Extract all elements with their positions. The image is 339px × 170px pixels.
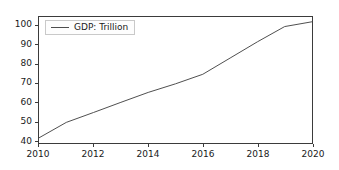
x-tick-label: 2012 — [82, 150, 105, 159]
legend-line-swatch — [51, 27, 69, 28]
x-tick-mark — [203, 144, 204, 147]
x-tick-mark — [93, 144, 94, 147]
x-tick-label: 2020 — [302, 150, 325, 159]
data-line-svg — [39, 17, 312, 143]
x-tick-label: 2010 — [27, 150, 50, 159]
x-tick-mark — [313, 144, 314, 147]
x-tick-label: 2014 — [137, 150, 160, 159]
legend-item-label: GDP: Trillion — [74, 23, 128, 32]
x-tick-mark — [258, 144, 259, 147]
legend: GDP: Trillion — [45, 20, 135, 35]
plot-area — [38, 16, 313, 144]
series-line-gdp-trillion — [39, 22, 312, 138]
x-tick-label: 2018 — [247, 150, 270, 159]
chart-figure: 405060708090100 201020122014201620182020… — [0, 0, 339, 170]
x-tick-mark — [148, 144, 149, 147]
x-tick-label: 2016 — [192, 150, 215, 159]
x-tick-mark — [38, 144, 39, 147]
